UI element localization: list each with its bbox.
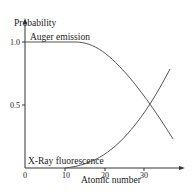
xray-fluorescence-label: X-Ray fluorescence <box>28 156 104 166</box>
x-tick-label-10: 10 <box>62 171 70 180</box>
x-axis-label: Atomic number <box>81 175 142 185</box>
y-tick-label-1: 1.0 <box>10 38 20 47</box>
chart: 1.0 0.5 0 10 20 30 Probability Atomic nu… <box>0 0 194 194</box>
y-axis-label: Probability <box>14 18 56 28</box>
x-tick-label-30: 30 <box>140 171 148 180</box>
auger-emission-label: Auger emission <box>30 32 90 42</box>
x-axis-arrow-icon <box>179 166 185 170</box>
x-tick-label-0: 0 <box>23 171 27 180</box>
auger-emission-curve <box>25 42 173 139</box>
y-tick-label-05: 0.5 <box>10 101 20 110</box>
xray-fluorescence-curve <box>65 69 170 168</box>
